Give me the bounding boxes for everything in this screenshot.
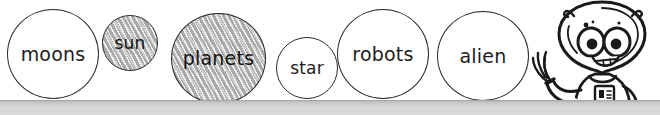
worksheet-canvas: moons sun planets star robots alien (0, 0, 660, 115)
word-bubble-moons[interactable]: moons (7, 9, 99, 99)
alien-mascot-icon (531, 0, 660, 115)
word-bubble-robots[interactable]: robots (337, 9, 429, 99)
word-bubble-label: robots (352, 45, 413, 64)
word-bubble-label: star (290, 60, 324, 77)
word-bubble-label: planets (183, 49, 254, 68)
word-bubble-sun[interactable]: sun (102, 15, 158, 71)
word-bubble-star[interactable]: star (276, 37, 338, 99)
word-bubble-label: alien (460, 47, 507, 66)
word-bubble-label: sun (114, 35, 145, 52)
word-bubble-planets[interactable]: planets (171, 13, 266, 104)
word-bubble-label: moons (21, 45, 86, 64)
word-bubble-alien[interactable]: alien (437, 11, 529, 101)
shelf-bar (0, 100, 660, 115)
